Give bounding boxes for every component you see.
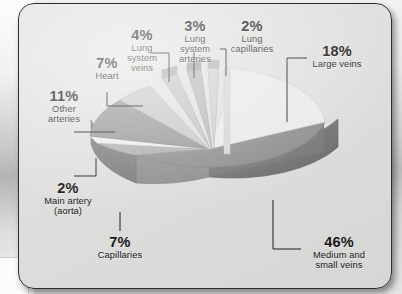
label-large-veins-name: Large veins: [297, 60, 377, 70]
leader-main-artery: [74, 158, 96, 176]
label-lung-system-arteries-name-3: arteries: [169, 55, 221, 65]
label-lung-capillaries-percent: 2%: [221, 19, 283, 34]
label-medium-small-veins: 46% Medium and small veins: [294, 235, 384, 271]
label-capillaries-name: Capillaries: [80, 251, 160, 261]
label-lung-system-veins: 4% Lung system veins: [115, 28, 169, 74]
label-capillaries: 7% Capillaries: [80, 235, 160, 261]
wall-large-veins-edge: [224, 68, 230, 154]
label-large-veins: 18% Large veins: [297, 44, 377, 70]
label-other-arteries: 11% Other arteries: [31, 89, 97, 125]
label-capillaries-percent: 7%: [80, 235, 160, 250]
chart-panel: 18% Large veins 46% Medium and small vei…: [18, 3, 392, 289]
label-large-veins-percent: 18%: [297, 44, 377, 59]
screenshot-root: 18% Large veins 46% Medium and small vei…: [0, 0, 402, 294]
label-lung-system-arteries-percent: 3%: [169, 19, 221, 34]
label-other-arteries-name-2: arteries: [31, 115, 97, 125]
label-lung-system-veins-name-3: veins: [115, 64, 169, 74]
label-other-arteries-percent: 11%: [31, 89, 97, 104]
label-lung-capillaries-name-2: capillaries: [221, 45, 283, 55]
label-medium-small-veins-name-2: small veins: [294, 261, 384, 271]
label-lung-system-arteries: 3% Lung system arteries: [169, 19, 221, 65]
pie-chart-stage: 18% Large veins 46% Medium and small vei…: [19, 4, 391, 288]
label-main-artery-percent: 2%: [27, 181, 109, 196]
label-lung-capillaries: 2% Lung capillaries: [221, 19, 283, 55]
label-lung-system-veins-percent: 4%: [115, 28, 169, 43]
label-main-artery-aorta: 2% Main artery (aorta): [27, 181, 109, 217]
label-main-artery-name-2: (aorta): [27, 207, 109, 217]
label-medium-small-veins-percent: 46%: [294, 235, 384, 250]
